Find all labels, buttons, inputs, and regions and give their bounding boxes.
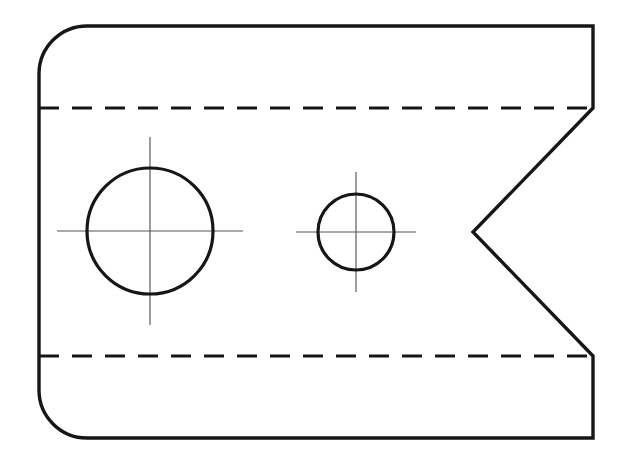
drawing-svg — [0, 0, 626, 463]
technical-drawing-canvas — [0, 0, 626, 463]
